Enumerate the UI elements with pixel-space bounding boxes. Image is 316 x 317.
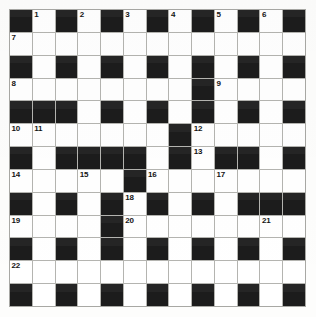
- crossword-cell[interactable]: [260, 170, 282, 192]
- crossword-cell[interactable]: [215, 193, 237, 215]
- crossword-cell[interactable]: [101, 33, 123, 55]
- crossword-cell[interactable]: [283, 170, 305, 192]
- crossword-cell[interactable]: [260, 147, 282, 169]
- crossword-cell[interactable]: [78, 261, 100, 283]
- crossword-cell[interactable]: [169, 56, 191, 78]
- crossword-cell[interactable]: [124, 56, 146, 78]
- crossword-cell[interactable]: [215, 261, 237, 283]
- crossword-cell[interactable]: [147, 147, 169, 169]
- crossword-cell[interactable]: [260, 56, 282, 78]
- crossword-cell[interactable]: [283, 261, 305, 283]
- crossword-cell[interactable]: [169, 261, 191, 283]
- crossword-cell[interactable]: [124, 79, 146, 101]
- crossword-cell[interactable]: 9: [215, 79, 237, 101]
- crossword-cell[interactable]: [147, 124, 169, 146]
- crossword-cell[interactable]: 2: [78, 10, 100, 32]
- crossword-cell[interactable]: [147, 79, 169, 101]
- crossword-cell[interactable]: [78, 33, 100, 55]
- crossword-cell[interactable]: [124, 284, 146, 306]
- crossword-cell[interactable]: [101, 79, 123, 101]
- crossword-cell[interactable]: 3: [124, 10, 146, 32]
- crossword-cell[interactable]: [78, 79, 100, 101]
- crossword-cell[interactable]: [169, 170, 191, 192]
- crossword-cell[interactable]: [78, 101, 100, 123]
- crossword-cell[interactable]: [260, 33, 282, 55]
- crossword-cell[interactable]: [260, 238, 282, 260]
- crossword-cell[interactable]: [124, 261, 146, 283]
- crossword-cell[interactable]: [78, 193, 100, 215]
- crossword-cell[interactable]: [124, 101, 146, 123]
- crossword-cell[interactable]: [56, 33, 78, 55]
- crossword-cell[interactable]: [192, 33, 214, 55]
- crossword-cell[interactable]: [56, 261, 78, 283]
- crossword-cell[interactable]: [238, 79, 260, 101]
- crossword-cell[interactable]: [283, 124, 305, 146]
- crossword-cell[interactable]: 20: [124, 216, 146, 238]
- crossword-cell[interactable]: [192, 170, 214, 192]
- crossword-cell[interactable]: 18: [124, 193, 146, 215]
- crossword-cell[interactable]: 16: [147, 170, 169, 192]
- crossword-cell[interactable]: 5: [215, 10, 237, 32]
- crossword-cell[interactable]: [169, 33, 191, 55]
- crossword-cell[interactable]: 1: [33, 10, 55, 32]
- crossword-cell[interactable]: [215, 101, 237, 123]
- crossword-cell[interactable]: 11: [33, 124, 55, 146]
- crossword-cell[interactable]: [124, 124, 146, 146]
- crossword-cell[interactable]: [33, 170, 55, 192]
- crossword-cell[interactable]: [56, 79, 78, 101]
- crossword-grid[interactable]: 12345678910111213141516171819202122: [9, 9, 306, 307]
- crossword-cell[interactable]: 21: [260, 216, 282, 238]
- crossword-cell[interactable]: [33, 216, 55, 238]
- crossword-cell[interactable]: [78, 216, 100, 238]
- crossword-cell[interactable]: [78, 284, 100, 306]
- crossword-cell[interactable]: 6: [260, 10, 282, 32]
- crossword-cell[interactable]: [56, 170, 78, 192]
- crossword-cell[interactable]: [33, 33, 55, 55]
- crossword-cell[interactable]: [147, 216, 169, 238]
- crossword-cell[interactable]: [283, 79, 305, 101]
- crossword-cell[interactable]: [33, 79, 55, 101]
- crossword-cell[interactable]: [260, 124, 282, 146]
- crossword-cell[interactable]: [169, 101, 191, 123]
- crossword-cell[interactable]: [124, 33, 146, 55]
- crossword-cell[interactable]: [283, 33, 305, 55]
- crossword-cell[interactable]: 17: [215, 170, 237, 192]
- crossword-cell[interactable]: [78, 238, 100, 260]
- crossword-cell[interactable]: 13: [192, 147, 214, 169]
- crossword-cell[interactable]: [238, 216, 260, 238]
- crossword-cell[interactable]: [101, 170, 123, 192]
- crossword-cell[interactable]: [283, 216, 305, 238]
- crossword-cell[interactable]: [56, 216, 78, 238]
- crossword-cell[interactable]: [260, 101, 282, 123]
- crossword-cell[interactable]: 15: [78, 170, 100, 192]
- crossword-cell[interactable]: [33, 56, 55, 78]
- crossword-cell[interactable]: [147, 261, 169, 283]
- crossword-cell[interactable]: [215, 56, 237, 78]
- crossword-cell[interactable]: [238, 261, 260, 283]
- crossword-cell[interactable]: [192, 216, 214, 238]
- crossword-cell[interactable]: [169, 238, 191, 260]
- crossword-cell[interactable]: [56, 124, 78, 146]
- crossword-cell[interactable]: [169, 193, 191, 215]
- crossword-cell[interactable]: [215, 33, 237, 55]
- crossword-cell[interactable]: [33, 284, 55, 306]
- crossword-cell[interactable]: 19: [10, 216, 32, 238]
- crossword-cell[interactable]: [147, 33, 169, 55]
- crossword-cell[interactable]: [101, 124, 123, 146]
- crossword-cell[interactable]: [33, 261, 55, 283]
- crossword-cell[interactable]: [169, 216, 191, 238]
- crossword-cell[interactable]: 4: [169, 10, 191, 32]
- crossword-cell[interactable]: 14: [10, 170, 32, 192]
- crossword-cell[interactable]: [260, 284, 282, 306]
- crossword-cell[interactable]: [192, 261, 214, 283]
- crossword-cell[interactable]: 8: [10, 79, 32, 101]
- crossword-cell[interactable]: [101, 261, 123, 283]
- crossword-cell[interactable]: 10: [10, 124, 32, 146]
- crossword-cell[interactable]: [33, 193, 55, 215]
- crossword-cell[interactable]: 12: [192, 124, 214, 146]
- crossword-cell[interactable]: [78, 124, 100, 146]
- crossword-cell[interactable]: [169, 284, 191, 306]
- crossword-cell[interactable]: [33, 147, 55, 169]
- crossword-cell[interactable]: [260, 261, 282, 283]
- crossword-cell[interactable]: [33, 238, 55, 260]
